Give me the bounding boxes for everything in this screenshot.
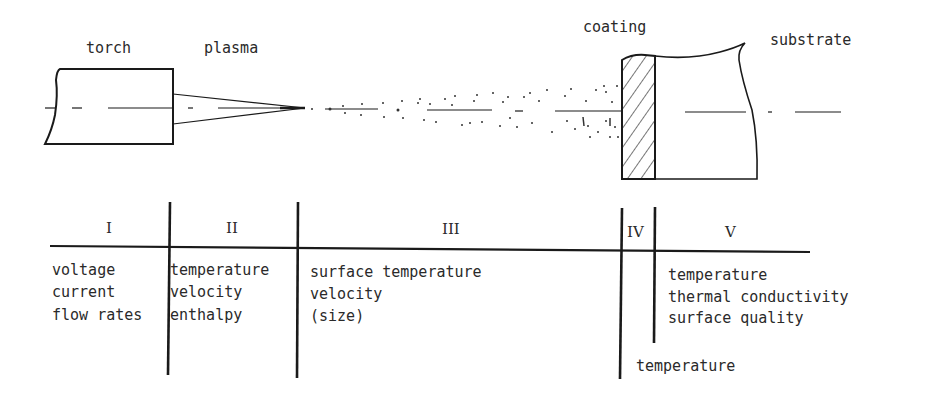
- zone-IV-header: IV: [627, 222, 644, 242]
- zone-III-param: surface temperature: [310, 262, 482, 282]
- zone-II-param: temperature: [170, 260, 269, 280]
- zone-II-param: enthalpy: [170, 305, 242, 325]
- zone-II-header: II: [226, 218, 238, 238]
- torch-label: torch: [86, 38, 131, 58]
- zone-III-param: (size): [310, 306, 364, 326]
- zone-III-header: III: [442, 219, 460, 239]
- plasma-cone: [173, 94, 305, 124]
- plasma-label: plasma: [204, 38, 258, 58]
- centerline: [45, 108, 841, 112]
- zone-III-param: velocity: [310, 284, 382, 304]
- zone-I-param: voltage: [52, 260, 115, 280]
- zone-I-header: I: [106, 218, 112, 238]
- substrate-shape: [655, 43, 757, 179]
- zone-II-param: velocity: [170, 282, 242, 302]
- coating-layer: [622, 55, 655, 179]
- coating-label: coating: [583, 17, 646, 37]
- zone-V-param: surface quality: [668, 308, 803, 328]
- substrate-label: substrate: [770, 30, 851, 50]
- torch-shape: [45, 69, 173, 144]
- zone-V-param: thermal conductivity: [668, 287, 849, 307]
- plasma-spray-process-diagram: [0, 0, 927, 401]
- zone-I-param: current: [52, 282, 115, 302]
- zone-V-param: temperature: [668, 265, 767, 285]
- zone-V-header: V: [725, 222, 736, 242]
- zone-IV-param: temperature: [636, 356, 735, 376]
- zone-I-param: flow rates: [52, 305, 142, 325]
